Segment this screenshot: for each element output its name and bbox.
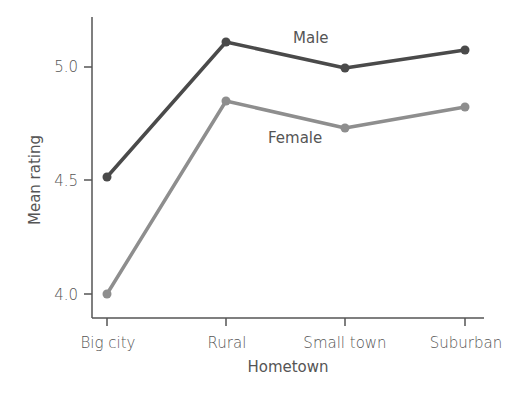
x-ticks: Big city Rural Small town Suburban <box>81 318 503 352</box>
y-tick-label: 4.5 <box>54 172 78 190</box>
series-male <box>103 38 470 182</box>
x-axis-title: Hometown <box>247 358 328 376</box>
y-tick-label: 4.0 <box>54 286 78 304</box>
x-tick-label: Small town <box>303 334 386 352</box>
x-tick-label: Suburban <box>430 334 502 352</box>
series-label-female: Female <box>268 129 322 147</box>
y-axis-title: Mean rating <box>26 135 44 225</box>
series-label-male: Male <box>293 29 329 47</box>
x-tick-label: Rural <box>208 334 247 352</box>
y-ticks: 5.0 4.5 4.0 <box>54 58 92 304</box>
series-female <box>103 97 470 299</box>
x-tick-label: Big city <box>81 334 136 352</box>
y-tick-label: 5.0 <box>54 58 78 76</box>
line-chart: 5.0 4.5 4.0 Big city Rural Small town Su… <box>0 0 522 394</box>
